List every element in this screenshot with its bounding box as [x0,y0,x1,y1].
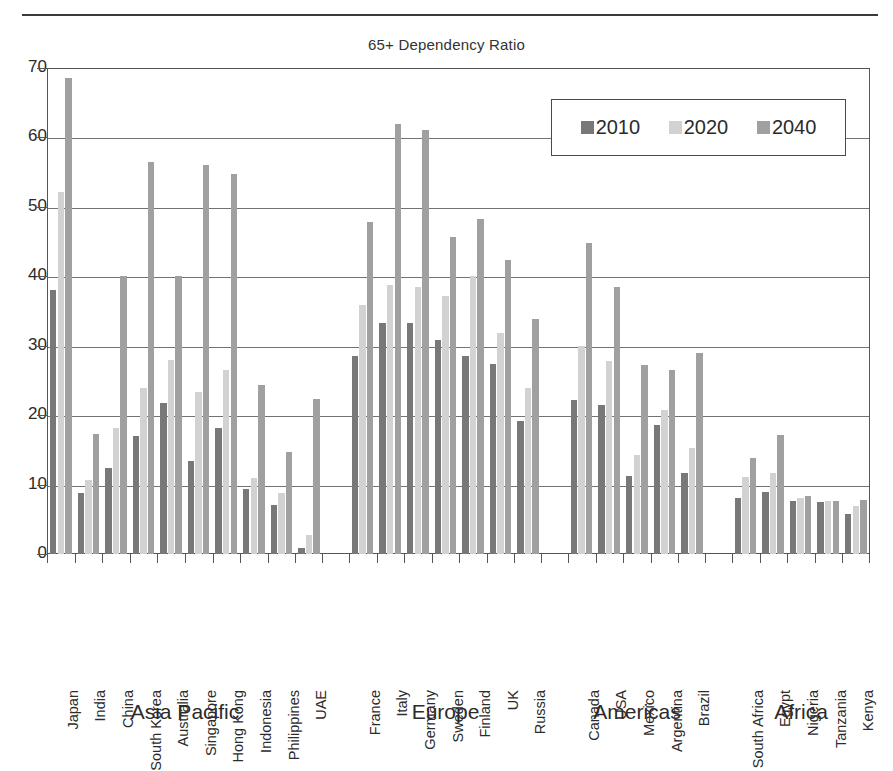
x-tick-russia [514,554,515,563]
x-tick-nigeria [787,554,788,563]
x-tick-usa [596,554,597,563]
x-tick-canada [568,554,569,563]
gridline-10 [48,486,869,487]
x-tick-brazil [678,554,679,563]
y-tick-mark-60 [37,137,47,138]
region-label-europe: Europe [349,700,542,724]
x-tick-mexico [623,554,624,563]
region-label-africa: Africa [732,700,870,724]
x-tick-france [349,554,350,563]
gridline-40 [48,277,869,278]
y-tick-mark-30 [37,346,47,347]
x-tick-japan [47,554,48,563]
x-tick-south-korea [130,554,131,563]
y-tick-mark-0 [37,554,47,555]
x-tick-sweden [432,554,433,563]
x-tick-argentina [651,554,652,563]
region-label-asia-pacific: Asia Pacific [47,700,323,724]
y-tick-mark-10 [37,485,47,486]
y-tick-label-10: 10 [17,474,47,494]
y-tick-label-70: 70 [17,57,47,77]
x-tick-china [102,554,103,563]
x-tick-group-end [705,554,706,563]
x-tick-egypt [760,554,761,563]
x-tick-tanzania [815,554,816,563]
x-tick-group-end [541,554,542,563]
x-tick-group-end [869,554,870,563]
x-tick-germany [404,554,405,563]
legend-entry-2010[interactable]: 2010 [581,116,641,139]
x-tick-indonesia [240,554,241,563]
legend-swatch-2040 [757,121,770,134]
x-tick-australia [157,554,158,563]
legend-label-2010: 2010 [596,116,641,139]
gridline-30 [48,347,869,348]
top-divider-rule [22,14,878,16]
chart-legend[interactable]: 201020202040 [551,99,846,156]
legend-entry-2020[interactable]: 2020 [669,116,729,139]
x-tick-finland [459,554,460,563]
y-tick-mark-40 [37,276,47,277]
y-tick-label-50: 50 [17,196,47,216]
y-tick-label-20: 20 [17,404,47,424]
x-tick-singapore [185,554,186,563]
region-label-americas: Americas [568,700,706,724]
legend-swatch-2010 [581,121,594,134]
x-tick-kenya [842,554,843,563]
y-tick-label-60: 60 [17,126,47,146]
y-axis: 010203040506070 [0,68,47,554]
x-tick-india [75,554,76,563]
x-tick-italy [377,554,378,563]
legend-swatch-2020 [669,121,682,134]
gridline-50 [48,208,869,209]
y-tick-mark-70 [37,68,47,69]
x-tick-hong-kong [213,554,214,563]
gridline-20 [48,416,869,417]
legend-label-2040: 2040 [772,116,817,139]
x-tick-philippines [268,554,269,563]
x-axis-ticks [47,554,870,563]
region-group-labels: Asia PacificEuropeAmericasAfrica [47,700,870,740]
x-tick-uk [487,554,488,563]
x-tick-uae [295,554,296,563]
legend-entry-2040[interactable]: 2040 [757,116,817,139]
y-tick-label-40: 40 [17,265,47,285]
chart-title: 65+ Dependency Ratio [0,36,893,53]
y-tick-label-0: 0 [17,543,47,563]
y-tick-mark-20 [37,415,47,416]
x-tick-group-end [322,554,323,563]
y-tick-mark-50 [37,207,47,208]
x-tick-south-africa [732,554,733,563]
y-tick-label-30: 30 [17,335,47,355]
legend-label-2020: 2020 [684,116,729,139]
x-axis-labels: JapanIndiaChinaSouth KoreaAustraliaSinga… [47,566,870,696]
